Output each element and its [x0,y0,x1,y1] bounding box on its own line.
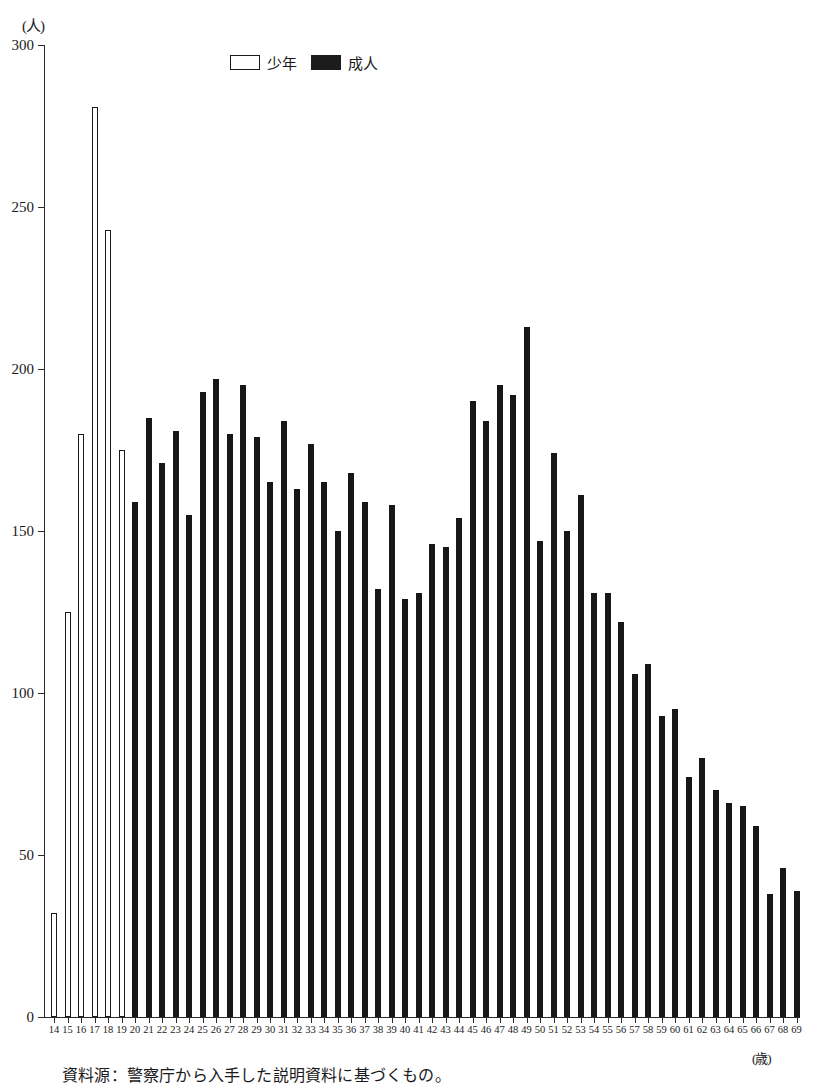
bar-age-25 [200,392,206,1017]
bar-age-38 [375,589,381,1017]
bar-age-37 [362,502,368,1017]
x-tick-19 [122,1018,123,1023]
bar-age-40 [402,599,408,1017]
x-tick-label-69: 69 [789,1025,805,1036]
bar-age-15 [65,612,71,1017]
y-tick-label-300: 300 [12,38,35,53]
x-tick-16 [81,1018,82,1023]
bar-age-60 [672,709,678,1017]
bar-age-56 [618,622,624,1017]
bar-age-32 [294,489,300,1017]
x-tick-46 [486,1018,487,1023]
x-tick-61 [689,1018,690,1023]
bar-age-44 [456,518,462,1017]
x-tick-50 [540,1018,541,1023]
x-tick-17 [95,1018,96,1023]
bar-age-67 [767,894,773,1017]
bar-age-36 [348,473,354,1017]
x-tick-65 [743,1018,744,1023]
x-tick-37 [365,1018,366,1023]
bar-age-65 [740,806,746,1017]
x-tick-15 [68,1018,69,1023]
legend-label-adult: 成人 [348,52,378,73]
x-tick-53 [581,1018,582,1023]
bar-age-16 [78,434,84,1017]
bar-age-57 [632,674,638,1017]
x-tick-40 [405,1018,406,1023]
bar-age-22 [159,463,165,1017]
bar-age-27 [227,434,233,1017]
x-tick-59 [662,1018,663,1023]
x-tick-60 [675,1018,676,1023]
x-tick-66 [756,1018,757,1023]
x-tick-31 [284,1018,285,1023]
y-tick-0 [38,1017,45,1018]
bar-age-29 [254,437,260,1017]
y-tick-label-50: 50 [19,848,34,863]
x-axis-line [44,1017,800,1018]
bar-age-47 [497,385,503,1017]
x-tick-44 [459,1018,460,1023]
bar-age-18 [105,230,111,1017]
x-tick-36 [351,1018,352,1023]
bar-age-17 [92,107,98,1017]
x-tick-28 [243,1018,244,1023]
bar-age-23 [173,431,179,1017]
x-tick-55 [608,1018,609,1023]
bar-age-59 [659,716,665,1017]
x-tick-62 [702,1018,703,1023]
x-tick-45 [473,1018,474,1023]
bar-age-69 [794,891,800,1017]
bar-chart-figure: (人) (歳) 050100150200250300 1415161718192… [0,0,815,1090]
x-tick-52 [567,1018,568,1023]
x-tick-21 [149,1018,150,1023]
chart-legend: 少年成人 [230,52,378,73]
bar-age-19 [119,450,125,1017]
bar-age-30 [267,482,273,1017]
x-tick-56 [621,1018,622,1023]
legend-entry-2: 成人 [311,52,378,73]
bar-age-41 [416,593,422,1017]
x-tick-23 [176,1018,177,1023]
x-tick-68 [783,1018,784,1023]
x-tick-34 [324,1018,325,1023]
bar-age-14 [51,913,57,1017]
x-tick-32 [297,1018,298,1023]
plot-area [44,45,804,1017]
x-tick-27 [230,1018,231,1023]
bar-age-42 [429,544,435,1017]
bar-age-33 [308,444,314,1017]
x-tick-58 [648,1018,649,1023]
x-tick-26 [216,1018,217,1023]
y-tick-label-200: 200 [12,362,35,377]
bar-age-52 [564,531,570,1017]
x-tick-63 [716,1018,717,1023]
x-tick-20 [135,1018,136,1023]
y-tick-label-0: 0 [27,1010,35,1025]
x-tick-57 [635,1018,636,1023]
legend-swatch-adult [311,55,341,70]
x-tick-47 [500,1018,501,1023]
bar-age-48 [510,395,516,1017]
x-tick-25 [203,1018,204,1023]
bar-age-46 [483,421,489,1017]
x-tick-51 [554,1018,555,1023]
x-tick-39 [392,1018,393,1023]
x-tick-24 [189,1018,190,1023]
bar-age-64 [726,803,732,1017]
bar-age-39 [389,505,395,1017]
x-tick-54 [594,1018,595,1023]
bar-age-68 [780,868,786,1017]
bar-age-34 [321,482,327,1017]
x-tick-30 [270,1018,271,1023]
bar-age-50 [537,541,543,1017]
y-tick-label-100: 100 [12,686,35,701]
bar-age-43 [443,547,449,1017]
x-tick-49 [527,1018,528,1023]
bar-age-62 [699,758,705,1017]
bar-age-21 [146,418,152,1017]
bar-age-53 [578,495,584,1017]
x-tick-64 [729,1018,730,1023]
x-tick-48 [513,1018,514,1023]
bar-age-28 [240,385,246,1017]
